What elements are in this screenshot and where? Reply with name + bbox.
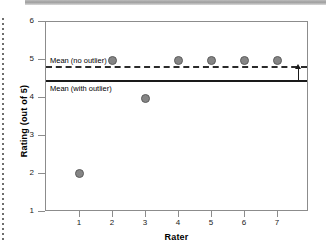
x-tick-label-6: 6 (234, 219, 254, 227)
mean-gap-arrow-head (295, 64, 301, 69)
chart-figure: 6 5 4 3 2 1 1 2 3 4 5 6 7 Mean (no outli… (0, 0, 326, 249)
x-tick-label-5: 5 (201, 219, 221, 227)
page-left-spine (2, 18, 4, 243)
y-tick-6 (38, 21, 45, 22)
mean-no-outlier-label: Mean (no outlier) (48, 56, 108, 66)
data-point-rater-4 (174, 56, 183, 65)
y-tick-4 (38, 97, 45, 98)
y-tick-5 (38, 59, 45, 60)
mean-with-outlier-line (46, 80, 307, 82)
x-tick-4 (178, 211, 179, 217)
data-point-rater-5 (207, 56, 216, 65)
data-point-rater-3 (141, 94, 150, 103)
y-tick-1 (38, 211, 45, 212)
x-tick-3 (145, 211, 146, 217)
y-axis-title: Rating (out of 5) (19, 51, 29, 191)
x-tick-5 (211, 211, 212, 217)
data-point-rater-1 (75, 169, 84, 178)
y-tick-label-1: 1 (12, 207, 34, 215)
x-tick-1 (79, 211, 80, 217)
x-tick-label-2: 2 (102, 219, 122, 227)
data-point-rater-2 (108, 56, 117, 65)
y-tick-2 (38, 173, 45, 174)
data-point-rater-6 (240, 56, 249, 65)
mean-with-outlier-label: Mean (with outlier) (48, 84, 113, 94)
y-tick-3 (38, 135, 45, 136)
plot-area (45, 21, 308, 211)
x-tick-6 (244, 211, 245, 217)
x-tick-7 (277, 211, 278, 217)
x-tick-label-7: 7 (267, 219, 287, 227)
x-tick-2 (112, 211, 113, 217)
mean-no-outlier-line (46, 66, 307, 68)
x-tick-label-1: 1 (69, 219, 89, 227)
x-tick-label-3: 3 (135, 219, 155, 227)
page-top-band (25, 0, 326, 5)
x-axis-title: Rater (45, 232, 308, 242)
data-point-rater-7 (273, 56, 282, 65)
y-tick-label-6: 6 (12, 17, 34, 25)
x-tick-label-4: 4 (168, 219, 188, 227)
